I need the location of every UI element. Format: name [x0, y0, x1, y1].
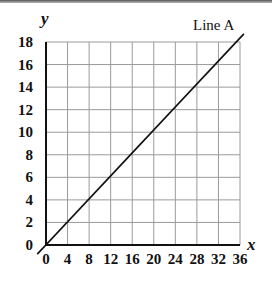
x-tick-label: 8	[85, 251, 93, 267]
y-tick-label: 12	[18, 102, 33, 118]
x-tick-label: 20	[146, 251, 161, 267]
y-tick-label: 16	[18, 57, 34, 73]
x-tick-label: 4	[64, 251, 72, 267]
x-tick-label: 16	[125, 251, 141, 267]
y-tick-label: 18	[18, 34, 33, 50]
x-tick-label: 24	[168, 251, 184, 267]
x-tick-label: 32	[211, 251, 226, 267]
x-tick-label: 12	[103, 251, 118, 267]
x-tick-label: 0	[42, 251, 50, 267]
y-tick-label: 10	[18, 124, 33, 140]
x-tick-labels: 04812162024283236	[42, 251, 248, 267]
x-tick-label: 36	[233, 251, 249, 267]
y-tick-label: 0	[26, 237, 34, 253]
y-tick-label: 8	[26, 147, 34, 163]
x-tick-label: 28	[189, 251, 204, 267]
y-tick-label: 2	[26, 214, 34, 230]
y-axis-label: y	[39, 9, 49, 28]
y-tick-label: 6	[26, 169, 34, 185]
y-tick-label: 4	[26, 192, 34, 208]
line-chart: 04812162024283236 024681012141618 x y Li…	[0, 0, 272, 283]
line-a-label: Line A	[193, 17, 234, 33]
y-tick-labels: 024681012141618	[18, 34, 34, 253]
line-a	[37, 34, 244, 254]
y-tick-label: 14	[18, 79, 34, 95]
data-series	[37, 34, 244, 254]
x-axis-label: x	[246, 235, 256, 254]
